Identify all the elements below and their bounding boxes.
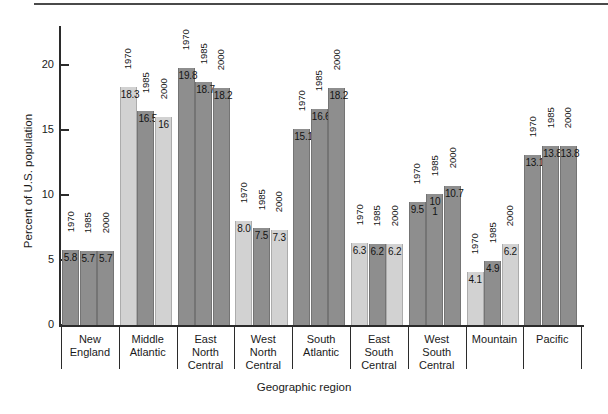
bar: 6.2 — [369, 244, 386, 325]
bar: 5.7 — [97, 251, 114, 325]
x-axis-separator — [581, 327, 582, 369]
bar-year-label: 1985 — [315, 70, 325, 91]
bar: 16.6 — [311, 109, 328, 325]
x-axis-category-label: Pacific — [523, 333, 581, 346]
bar: 4.1 — [467, 272, 484, 325]
bar-year-label: 1985 — [430, 155, 440, 176]
bar-value-label: 16.5 — [138, 114, 153, 124]
x-axis-category-label: EastSouthCentral — [350, 333, 408, 372]
bar-value-label: 4.9 — [485, 264, 500, 274]
bar-year-label: 1970 — [297, 90, 307, 111]
bar-value-label: 9.5 — [410, 205, 425, 215]
bar-value-label: 8.0 — [236, 224, 251, 234]
bar-year-label: 1985 — [488, 222, 498, 243]
bar-year-label: 1970 — [355, 204, 365, 225]
bar-value-label: 6.3 — [352, 246, 367, 256]
bar-year-label: 1985 — [257, 189, 267, 210]
x-axis-category-label: Mountain — [466, 333, 524, 346]
x-axis-category-label: WestSouthCentral — [408, 333, 466, 372]
bar: 16 — [155, 117, 172, 325]
bar-year-label: 2000 — [159, 78, 169, 99]
bar-year-label: 1985 — [546, 107, 556, 128]
bar-value-label: 4.1 — [468, 275, 483, 285]
bar: 7.3 — [271, 230, 288, 325]
bar-chart: 05101520 Percent of U.S. population 5.81… — [0, 0, 608, 414]
bar: 18.7 — [195, 82, 212, 325]
bar-value-label: 16 — [156, 120, 171, 130]
bar-year-label: 1985 — [199, 43, 209, 64]
bar-year-label: 2000 — [332, 50, 342, 71]
bar-year-label: 1985 — [372, 206, 382, 227]
bar: 6.3 — [351, 243, 368, 325]
bar: 18.2 — [213, 88, 230, 325]
bar-value-label: 10 1 — [427, 197, 442, 217]
bar-value-label: 18.7 — [196, 85, 211, 95]
bar-value-label: 10.7 — [445, 189, 460, 199]
bar-value-label: 6.2 — [370, 247, 385, 257]
bar: 4.9 — [484, 261, 501, 325]
bar-value-label: 13.8 — [543, 149, 558, 159]
bar-year-label: 1970 — [470, 233, 480, 254]
bar-year-label: 2000 — [390, 206, 400, 227]
bar: 16.5 — [137, 111, 154, 326]
bar: 6.2 — [502, 244, 519, 325]
bar: 6.2 — [386, 244, 403, 325]
bar-year-label: 2000 — [274, 191, 284, 212]
bar-value-label: 19.8 — [179, 71, 194, 81]
bar-value-label: 7.5 — [254, 231, 269, 241]
bar: 5.7 — [80, 251, 97, 325]
bar: 15.1 — [293, 129, 310, 325]
bar-value-label: 13.1 — [525, 158, 540, 168]
bar-value-label: 18.2 — [214, 91, 229, 101]
bar: 13.8 — [542, 146, 559, 325]
bar-value-label: 6.2 — [387, 247, 402, 257]
bar-value-label: 18.3 — [121, 90, 136, 100]
bar-value-label: 7.3 — [272, 233, 287, 243]
bar-year-label: 2000 — [448, 147, 458, 168]
bar-value-label: 15.1 — [294, 132, 309, 142]
bar-year-label: 1970 — [239, 182, 249, 203]
bar: 13.1 — [524, 155, 541, 325]
bar-year-label: 2000 — [563, 107, 573, 128]
bar-value-label: 16.6 — [312, 112, 327, 122]
bar-year-label: 1970 — [528, 116, 538, 137]
bar-year-label: 1970 — [66, 211, 76, 232]
bar-year-label: 1985 — [83, 212, 93, 233]
bar-value-label: 6.2 — [503, 247, 518, 257]
bar: 8.0 — [235, 221, 252, 325]
bar: 18.2 — [328, 88, 345, 325]
x-axis-category-label: NewEngland — [61, 333, 119, 359]
bar-year-label: 1970 — [124, 48, 134, 69]
x-axis-title: Geographic region — [0, 381, 608, 393]
x-axis-category-label: SouthAtlantic — [292, 333, 350, 359]
bar: 10.7 — [444, 186, 461, 325]
x-axis-category-label: EastNorthCentral — [177, 333, 235, 372]
bar-year-label: 2000 — [217, 50, 227, 71]
bar-year-label: 2000 — [101, 212, 111, 233]
bar: 9.5 — [409, 202, 426, 326]
bar-value-label: 13.8 — [561, 149, 576, 159]
bar-value-label: 5.7 — [81, 254, 96, 264]
bar-value-label: 5.7 — [98, 254, 113, 264]
x-axis-category-label: MiddleAtlantic — [119, 333, 177, 359]
bar-year-label: 1970 — [413, 163, 423, 184]
x-axis-category-label: WestNorthCentral — [234, 333, 292, 372]
bar-year-label: 1985 — [141, 72, 151, 93]
bar: 19.8 — [178, 68, 195, 325]
bar: 7.5 — [253, 228, 270, 326]
bar-value-label: 5.8 — [63, 253, 78, 263]
bar-year-label: 2000 — [506, 206, 516, 227]
bar-value-label: 18.2 — [329, 91, 344, 101]
bar: 13.8 — [560, 146, 577, 325]
bar-year-label: 1970 — [181, 29, 191, 50]
bar: 18.3 — [120, 87, 137, 325]
bar: 10 1 — [426, 194, 443, 325]
bar: 5.8 — [62, 250, 79, 325]
